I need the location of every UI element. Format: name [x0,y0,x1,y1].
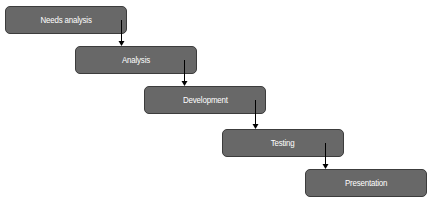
step-presentation: Presentation [305,169,427,197]
step-testing: Testing [222,129,344,157]
step-label: Analysis [122,55,150,65]
step-label: Needs analysis [40,15,91,25]
step-label: Testing [271,138,295,148]
step-label: Development [183,95,228,105]
step-needs-analysis: Needs analysis [5,6,127,34]
step-analysis: Analysis [75,46,197,74]
step-label: Presentation [345,178,387,188]
step-development: Development [144,86,266,114]
waterfall-diagram: Needs analysis Analysis Development Test… [0,0,433,204]
